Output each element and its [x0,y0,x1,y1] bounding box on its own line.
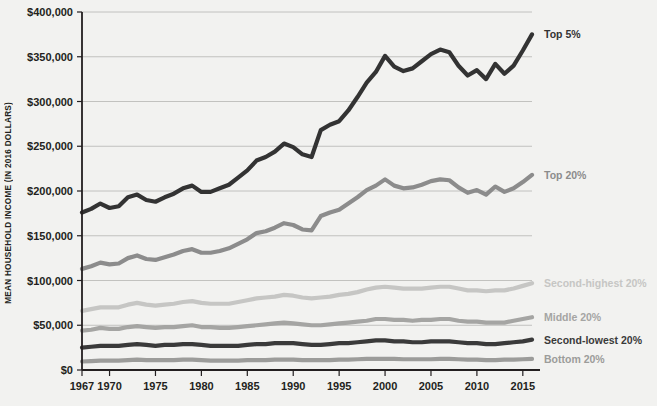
series-line-bottom-20- [82,359,532,362]
y-tick-label: $100,000 [27,275,73,287]
series-line-top-5- [82,34,532,212]
x-tick-label: 1985 [235,380,259,392]
y-tick-label: $0 [61,364,73,376]
series-line-second-lowest-20- [82,340,532,348]
y-tick-label: $400,000 [27,6,73,18]
x-tick-label: 1967 [70,380,94,392]
y-tick-label: $50,000 [33,319,73,331]
x-tick-label: 2000 [373,380,397,392]
y-tick-label: $200,000 [27,185,73,197]
line-chart: $0$50,000$100,000$150,000$200,000$250,00… [0,0,657,406]
y-tick-label: $150,000 [27,230,73,242]
x-tick-label: 2005 [419,380,443,392]
x-tick-label: 1995 [327,380,351,392]
series-label-middle-20-: Middle 20% [544,311,602,323]
x-tick-label: 2010 [465,380,489,392]
series-label-top-5-: Top 5% [544,28,581,40]
series-label-second-lowest-20-: Second-lowest 20% [544,334,643,346]
series-line-second-highest-20- [82,283,532,311]
x-tick-label: 1975 [143,380,167,392]
y-tick-label: $250,000 [27,140,73,152]
x-tick-label: 1990 [281,380,305,392]
x-tick-label: 1980 [189,380,213,392]
y-tick-label: $350,000 [27,51,73,63]
x-tick-label: 1970 [97,380,121,392]
series-label-second-highest-20-: Second-highest 20% [544,277,647,289]
series-line-middle-20- [82,317,532,330]
series-line-top-20- [82,175,532,269]
y-tick-label: $300,000 [27,96,73,108]
chart-container: MEAN HOUSEHOLD INCOME (IN 2016 DOLLARS) … [0,0,657,406]
x-tick-label: 2015 [511,380,535,392]
series-label-bottom-20-: Bottom 20% [544,353,605,365]
series-label-top-20-: Top 20% [544,169,587,181]
